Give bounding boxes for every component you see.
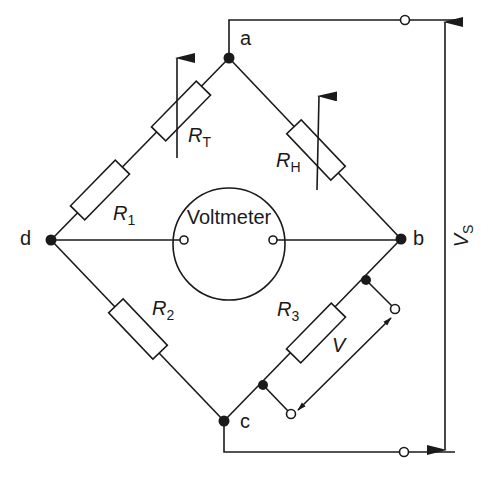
resistor-r2-label: R2 bbox=[152, 297, 174, 323]
resistor-r3-label: R3 bbox=[277, 298, 299, 324]
node-a-label: a bbox=[240, 27, 252, 49]
node-a bbox=[224, 53, 235, 64]
node-d-label: d bbox=[20, 227, 31, 249]
output-voltage-label: V bbox=[332, 334, 347, 356]
tap-node-upper bbox=[361, 275, 371, 285]
voltmeter-label: Voltmeter bbox=[187, 206, 272, 228]
node-d bbox=[46, 235, 57, 246]
vs-label: VS bbox=[450, 225, 476, 248]
voltmeter-right-terminal bbox=[269, 236, 277, 244]
output-tap: V bbox=[258, 275, 400, 419]
node-c-label: c bbox=[240, 410, 250, 432]
resistor-r1: R1 bbox=[70, 160, 135, 228]
resistor-r2: R2 bbox=[109, 297, 175, 359]
node-b bbox=[396, 234, 407, 245]
node-b-label: b bbox=[413, 227, 424, 249]
output-terminal-upper bbox=[391, 305, 400, 314]
voltmeter-left-terminal bbox=[180, 236, 188, 244]
voltmeter: Voltmeter bbox=[51, 188, 401, 300]
resistor-r1-label: R1 bbox=[113, 202, 135, 228]
tap-node-lower bbox=[258, 380, 268, 390]
wheatstone-bridge-diagram: VS RT R1 RH R2 R3 bbox=[0, 0, 498, 489]
tap-wire-lower bbox=[263, 385, 289, 412]
resistor-rh-label: RH bbox=[276, 149, 301, 175]
variable-arrow-icon bbox=[317, 96, 319, 190]
bottom-supply-wire bbox=[224, 421, 455, 452]
top-supply-wire bbox=[229, 20, 458, 58]
junctions: a b c d bbox=[20, 27, 424, 432]
top-supply-terminal bbox=[401, 16, 410, 25]
supply-wiring: VS bbox=[224, 16, 476, 457]
voltmeter-body bbox=[173, 188, 285, 300]
resistor-rt: RT bbox=[151, 58, 211, 158]
resistor-rt-label: RT bbox=[188, 124, 211, 150]
resistor-rh: RH bbox=[276, 96, 345, 190]
node-c bbox=[219, 416, 230, 427]
tap-wire-upper bbox=[366, 280, 393, 307]
output-terminal-lower bbox=[287, 410, 296, 419]
bottom-supply-terminal bbox=[400, 448, 409, 457]
